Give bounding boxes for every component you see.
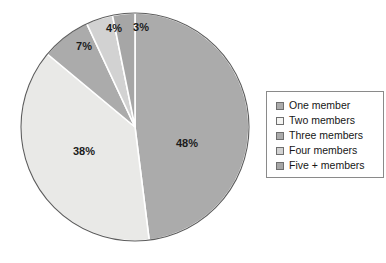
legend-item-label: Two members — [289, 115, 355, 126]
legend-item-label: Three members — [289, 130, 363, 141]
pie-chart-figure: 48% 38% 7% 4% 3% One member Two members … — [0, 0, 386, 263]
legend-swatch-icon — [276, 132, 284, 140]
legend-item-two-members[interactable]: Two members — [276, 113, 383, 128]
slice-label-four-members: 4% — [106, 22, 122, 34]
slice-label-two-members: 38% — [73, 145, 95, 157]
legend-swatch-icon — [276, 102, 284, 110]
legend-item-label: Five + members — [289, 160, 365, 171]
legend-swatch-icon — [276, 147, 284, 155]
pie-slices — [21, 13, 249, 241]
chart-legend: One member Two members Three members Fou… — [266, 91, 384, 178]
slice-label-three-members: 7% — [76, 40, 92, 52]
slice-label-one-member: 48% — [176, 137, 198, 149]
legend-item-four-members[interactable]: Four members — [276, 143, 383, 158]
legend-item-three-members[interactable]: Three members — [276, 128, 383, 143]
legend-item-five-members[interactable]: Five + members — [276, 158, 383, 173]
legend-item-one-member[interactable]: One member — [276, 98, 383, 113]
pie-slice-one-member[interactable] — [135, 13, 249, 240]
legend-item-label: Four members — [289, 145, 357, 156]
legend-item-label: One member — [289, 100, 350, 111]
slice-label-five-members: 3% — [133, 21, 149, 33]
legend-swatch-icon — [276, 117, 284, 125]
legend-swatch-icon — [276, 162, 284, 170]
